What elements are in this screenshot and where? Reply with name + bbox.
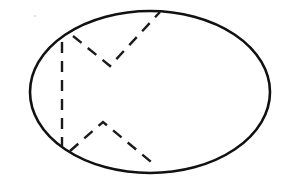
ellipse-outline (30, 11, 270, 173)
upper-v-dashed-path (73, 12, 160, 66)
scan-speck (34, 15, 36, 17)
diagram-canvas (0, 0, 285, 178)
